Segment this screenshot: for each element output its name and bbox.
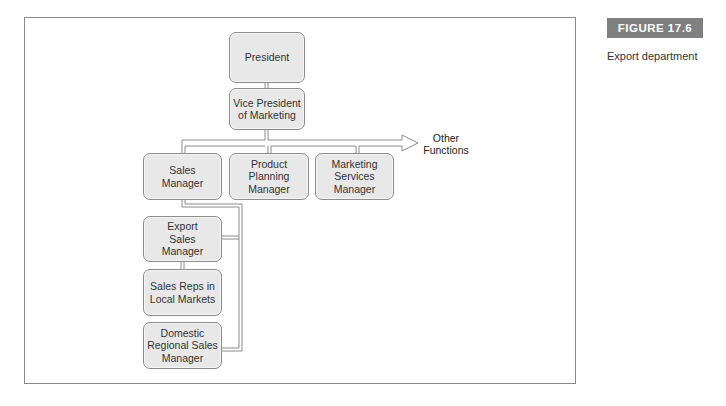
node-vp-marketing: Vice President of Marketing (229, 88, 305, 130)
figure-caption: Export department (607, 50, 698, 62)
node-label: Product Planning Manager (242, 158, 296, 196)
figure-label: FIGURE 17.6 (607, 18, 703, 38)
node-sales-reps-local-markets: Sales Reps in Local Markets (143, 269, 222, 316)
node-label: Export Sales Manager (157, 220, 209, 258)
node-product-planning-manager: Product Planning Manager (229, 153, 309, 200)
node-label: President (245, 51, 289, 64)
node-sales-manager: Sales Manager (143, 153, 222, 200)
node-domestic-regional-sales-manager: Domestic Regional Sales Manager (143, 322, 222, 369)
node-label: Marketing Services Manager (328, 158, 382, 196)
other-functions-label: Other Functions (420, 132, 472, 156)
node-marketing-services-manager: Marketing Services Manager (315, 153, 394, 200)
node-label: Vice President of Marketing (233, 97, 301, 122)
node-label: Sales Reps in Local Markets (150, 280, 216, 305)
node-label: Sales Manager (157, 164, 209, 189)
node-president: President (229, 32, 305, 83)
node-export-sales-manager: Export Sales Manager (143, 216, 222, 262)
node-label: Domestic Regional Sales Manager (147, 327, 218, 365)
